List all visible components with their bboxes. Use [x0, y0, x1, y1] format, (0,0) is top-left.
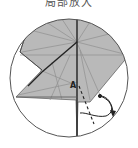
point-label-a: A	[70, 81, 77, 90]
paper-model	[16, 10, 129, 136]
origami-detail-diagram: A	[0, 0, 138, 148]
